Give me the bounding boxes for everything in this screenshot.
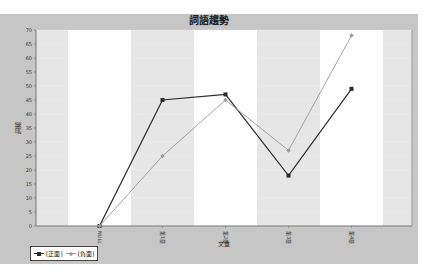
y-tick-label: 65 (26, 41, 32, 47)
line-marker-diamond-icon (66, 251, 76, 257)
y-tick-label: 60 (26, 55, 32, 61)
y-tick-label: 5 (29, 209, 32, 215)
y-tick-label: 25 (26, 153, 32, 159)
legend: [正面] [負面] (30, 246, 98, 261)
y-tick-label: 10 (26, 195, 32, 201)
x-tick-label: NULL (97, 231, 103, 244)
data-point-marker[interactable] (287, 174, 291, 178)
line-chart: 0510152025303540455055606570 NULL第1章第2章第… (0, 0, 430, 277)
legend-label: [負面] (78, 249, 95, 258)
data-point-marker[interactable] (224, 92, 228, 96)
legend-item-positive[interactable]: [正面] (34, 249, 63, 258)
y-tick-label: 20 (26, 167, 32, 173)
y-tick-label: 15 (26, 181, 32, 187)
line-marker-square-icon (34, 251, 44, 257)
y-tick-label: 50 (26, 83, 32, 89)
data-point-marker[interactable] (350, 87, 354, 91)
x-tick-label: 第1章 (159, 231, 166, 244)
y-tick-label: 30 (26, 139, 32, 145)
y-tick-label: 70 (26, 27, 32, 33)
x-tick-label: 第3章 (285, 231, 292, 244)
x-axis-title: 文章 (218, 240, 230, 248)
y-axis-ticks: 0510152025303540455055606570 (26, 27, 36, 229)
legend-item-negative[interactable]: [負面] (66, 249, 95, 258)
legend-label: [正面] (46, 249, 63, 258)
y-axis-title: 詞頻 (14, 122, 22, 134)
y-tick-label: 0 (29, 223, 32, 229)
y-tick-label: 40 (26, 111, 32, 117)
y-tick-label: 35 (26, 125, 32, 131)
y-tick-label: 45 (26, 97, 32, 103)
x-tick-label: 第4章 (348, 231, 355, 244)
y-tick-label: 55 (26, 69, 32, 75)
data-point-marker[interactable] (161, 98, 165, 102)
